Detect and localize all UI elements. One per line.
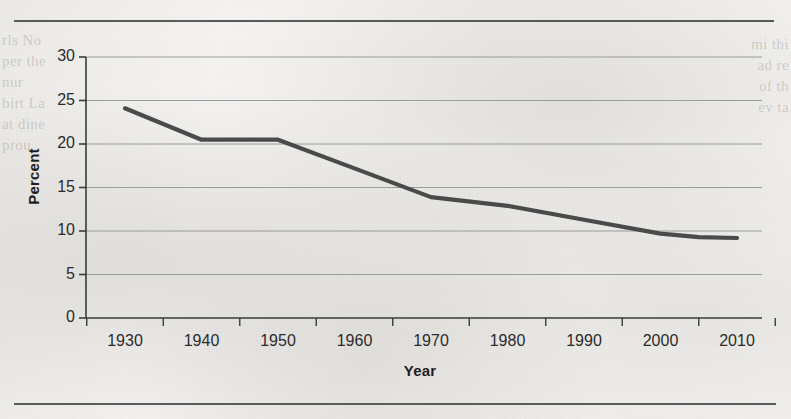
x-tick-label: 1990 xyxy=(549,332,619,350)
y-tick-label: 25 xyxy=(41,91,75,109)
data-series-line xyxy=(125,108,737,238)
scanned-page: rls No per the nur birt La at dine prou … xyxy=(0,0,791,419)
y-tick-label: 15 xyxy=(41,178,75,196)
x-tick-marks-group xyxy=(87,318,776,326)
y-tick-marks-group xyxy=(79,57,86,318)
y-tick-label: 0 xyxy=(41,308,75,326)
gridlines-group xyxy=(86,57,762,318)
x-tick-label: 1930 xyxy=(90,332,160,350)
y-axis-title: Percent xyxy=(25,134,42,220)
y-tick-label: 20 xyxy=(41,134,75,152)
x-tick-label: 2000 xyxy=(626,332,696,350)
x-tick-label: 1940 xyxy=(167,332,237,350)
y-tick-label: 10 xyxy=(41,221,75,239)
x-tick-label: 2010 xyxy=(702,332,772,350)
line-chart: 051015202530 193019401950196019701980199… xyxy=(0,0,791,419)
x-tick-label: 1960 xyxy=(320,332,390,350)
x-axis-title: Year xyxy=(385,362,455,379)
x-tick-label: 1950 xyxy=(243,332,313,350)
y-tick-label: 30 xyxy=(41,47,75,65)
y-tick-label: 5 xyxy=(41,265,75,283)
chart-canvas xyxy=(0,0,791,419)
x-tick-label: 1970 xyxy=(396,332,466,350)
x-tick-label: 1980 xyxy=(473,332,543,350)
